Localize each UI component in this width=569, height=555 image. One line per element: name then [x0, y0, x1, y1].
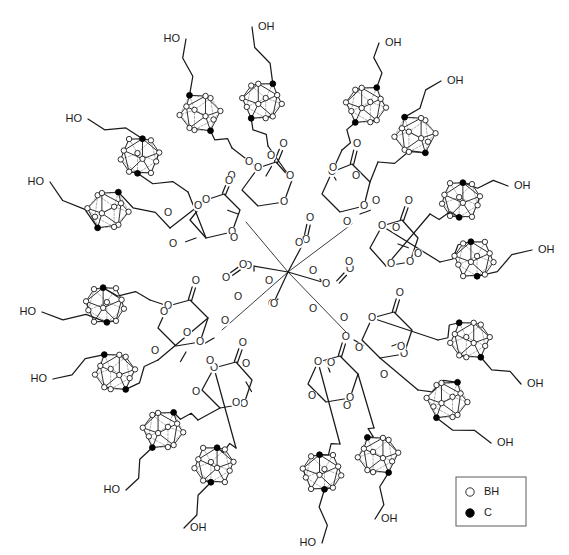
cage-vertex-bh — [368, 99, 373, 104]
cage-vertex-bh — [222, 447, 227, 452]
oxygen-label: O — [280, 195, 288, 207]
cage-vertex-bh — [389, 459, 394, 464]
cage-vertex-bh — [231, 459, 236, 464]
cage-vertex-bh — [214, 465, 219, 470]
cage-vertex-bh — [117, 352, 122, 357]
cage-vertex-carbon — [140, 136, 146, 142]
oxygen-label: O — [206, 354, 214, 366]
hydroxyl-label: OH — [381, 512, 398, 524]
cage-vertex-bh — [148, 138, 153, 143]
cage-vertex-bh — [113, 318, 118, 323]
cage-vertex-bh — [184, 104, 189, 109]
oxygen-label: O — [192, 274, 200, 286]
vertex-legend: BH C — [456, 477, 526, 526]
legend-c-label: C — [484, 506, 492, 518]
oxygen-label: O — [387, 257, 395, 269]
cage-vertex-bh — [140, 425, 145, 430]
cage-vertex-bh — [439, 201, 444, 206]
cage-vertex-carbon — [100, 285, 106, 291]
cage-vertex-bh — [460, 200, 465, 205]
cage-vertex-bh — [424, 395, 429, 400]
oxygen-label: O — [234, 290, 242, 302]
oxygen-label: O — [196, 335, 204, 347]
structure-canvas: OOOOOOOOOOO OOOOOOOOOOOOOOOOOOOOHOOHHOHO… — [0, 0, 569, 555]
hydroxyl-label: OH — [385, 36, 402, 48]
cage-vertex-bh — [203, 113, 208, 118]
cage-vertex-bh — [108, 386, 113, 391]
molecular-structure-figure: OOOOOOOOOOO OOOOOOOOOOOOOOOOOOOOHOOHHOHO… — [0, 0, 569, 555]
cage-vertex-bh — [471, 320, 476, 325]
hydroxyl-label: HO — [164, 32, 181, 44]
oxygen-label: O — [164, 206, 172, 218]
cage-vertex-bh — [86, 308, 91, 313]
oxygen-label: O — [232, 396, 240, 408]
cage-vertex-carbon — [214, 445, 220, 451]
cage-vertex-carbon — [478, 354, 484, 360]
cage-vertex-bh — [482, 343, 487, 348]
oxygen-label: O — [322, 277, 330, 289]
cage-vertex-bh — [83, 299, 88, 304]
cage-vertex-bh — [126, 169, 131, 174]
cage-vertex-bh — [330, 485, 335, 490]
hydroxyl-label: HO — [66, 112, 83, 124]
cage-vertex-bh — [135, 150, 140, 155]
cage-vertex-bh — [452, 253, 457, 258]
oxygen-label: O — [343, 215, 351, 227]
cage-vertex-bh — [374, 118, 379, 123]
cage-vertex-carbon — [115, 189, 121, 195]
cage-vertex-carbon — [402, 114, 408, 120]
cage-vertex-bh — [104, 299, 109, 304]
cage-vertex-bh — [127, 375, 132, 380]
cage-vertex-bh — [450, 414, 455, 419]
cage-vertex-bh — [85, 206, 90, 211]
cage-vertex-bh — [378, 96, 383, 101]
oxygen-label: O — [202, 193, 210, 205]
cage-vertex-bh — [392, 134, 397, 139]
hydroxyl-label: OH — [497, 436, 514, 448]
oxygen-label: O — [397, 340, 405, 352]
cage-vertex-bh — [458, 391, 463, 396]
cage-vertex-bh — [447, 213, 452, 218]
cage-vertex-carbon — [364, 435, 370, 441]
oxygen-label: O — [380, 368, 388, 380]
cage-vertex-bh — [300, 466, 305, 471]
cage-vertex-bh — [383, 105, 388, 110]
cage-vertex-bh — [469, 181, 474, 186]
cage-vertex-bh — [117, 372, 122, 377]
cage-vertex-bh — [126, 209, 131, 214]
cage-vertex-bh — [396, 450, 401, 455]
oxygen-label: O — [239, 258, 247, 270]
cage-vertex-bh — [111, 204, 116, 209]
cage-vertex-bh — [150, 412, 155, 417]
oxygen-label: O — [406, 255, 414, 267]
cage-vertex-bh — [460, 273, 465, 278]
cage-vertex-carbon — [386, 470, 392, 476]
cage-vertex-bh — [431, 404, 436, 409]
cage-vertex-bh — [256, 101, 261, 106]
oxygen-label: O — [353, 137, 361, 149]
cage-vertex-bh — [433, 131, 438, 136]
legend-c-marker-icon — [466, 509, 474, 517]
cage-vertex-bh — [177, 112, 182, 117]
cage-vertex-bh — [380, 435, 385, 440]
oxygen-label: O — [225, 174, 233, 186]
cage-vertex-bh — [355, 455, 360, 460]
cage-vertex-carbon — [123, 387, 129, 393]
cage-vertex-bh — [155, 430, 160, 435]
cage-vertex-bh — [121, 148, 126, 153]
oxygen-label: O — [368, 311, 376, 323]
cage-vertex-bh — [406, 129, 411, 134]
cage-vertex-bh — [279, 101, 284, 106]
cage-vertex-bh — [126, 136, 131, 141]
cage-vertex-carbon — [208, 479, 214, 485]
hydroxyl-label: OH — [258, 20, 275, 32]
cage-vertex-bh — [196, 457, 201, 462]
cage-vertex-bh — [157, 150, 162, 155]
cage-vertex-bh — [200, 478, 205, 483]
oxygen-label: O — [192, 385, 200, 397]
cage-vertex-carbon — [474, 273, 480, 279]
cage-vertex-bh — [386, 437, 391, 442]
cage-vertex-carbon — [422, 150, 428, 156]
hydroxyl-label: OH — [538, 243, 555, 255]
cage-vertex-bh — [456, 194, 461, 199]
